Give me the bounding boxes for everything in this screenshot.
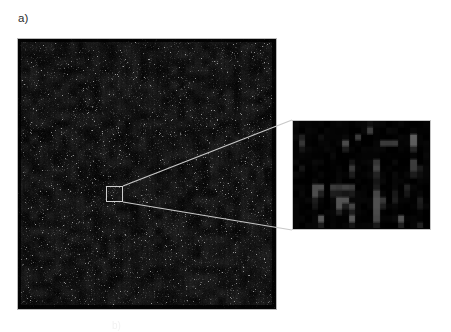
bottom-caption-partial: b) xyxy=(112,320,312,332)
main-noise-image[interactable] xyxy=(17,38,277,310)
figure-root: a) b) xyxy=(0,0,451,332)
magnified-detail-canvas xyxy=(293,121,429,228)
main-noise-canvas xyxy=(18,39,275,308)
zoom-selection-box[interactable] xyxy=(106,186,123,202)
magnified-detail-image[interactable] xyxy=(292,120,431,230)
panel-label: a) xyxy=(18,12,29,24)
